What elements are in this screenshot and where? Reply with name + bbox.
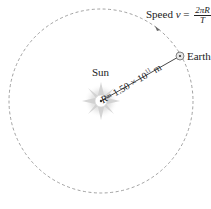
speed-eq: = <box>181 8 193 20</box>
speed-label: Speed v = 2πRT <box>146 6 211 25</box>
sun-label: Sun <box>92 66 109 78</box>
orbit-diagram <box>0 0 211 209</box>
earth-label: Earth <box>187 50 211 62</box>
speed-fraction: 2πRT <box>194 6 211 25</box>
speed-denominator: T <box>200 16 205 25</box>
velocity-arrow-icon <box>155 26 160 31</box>
earth-icon <box>176 52 184 60</box>
speed-prefix: Speed <box>146 8 176 20</box>
